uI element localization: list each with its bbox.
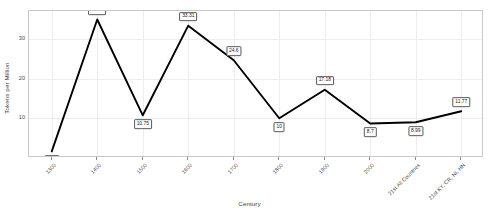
y-axis-tick-label: 20 bbox=[19, 75, 28, 81]
x-axis-tick-label: 1400 bbox=[90, 162, 103, 175]
x-axis-tick-mark bbox=[460, 157, 461, 160]
plot-area: 1.6834.8610.7533.3124.61017.188.78.9911.… bbox=[28, 10, 483, 157]
data-point-label: 8.99 bbox=[408, 126, 423, 136]
x-axis-tick-label: 1600 bbox=[181, 162, 194, 175]
y-axis-tick-label: 10 bbox=[19, 114, 28, 120]
x-axis-tick-mark bbox=[142, 157, 143, 160]
data-point-label: 34.86 bbox=[88, 10, 106, 15]
line-chart-figure: Tokens per Million 102030 1.6834.8610.75… bbox=[0, 0, 499, 220]
x-axis-tick-mark bbox=[51, 157, 52, 160]
x-axis-tick-label: 1300 bbox=[44, 162, 57, 175]
y-axis-title: Tokens per Million bbox=[3, 23, 13, 153]
x-axis-tick-label: 2000 bbox=[363, 162, 376, 175]
x-axis-title: Century bbox=[0, 200, 499, 207]
x-axis-tick-label: 21st KY, CR, NI, HN bbox=[428, 162, 467, 201]
x-axis-tick-label: 1900 bbox=[317, 162, 330, 175]
x-axis-tick-label: 1800 bbox=[272, 162, 285, 175]
data-point-label: 33.31 bbox=[179, 12, 197, 22]
x-axis-tick-mark bbox=[96, 157, 97, 160]
data-point-label: 17.18 bbox=[316, 76, 334, 86]
data-point-label: 8.7 bbox=[364, 128, 376, 138]
x-axis-tick-mark bbox=[324, 157, 325, 160]
x-axis-tick-mark bbox=[187, 157, 188, 160]
x-axis-tick-label: 1500 bbox=[135, 162, 148, 175]
data-point-label: 24.6 bbox=[226, 46, 241, 56]
x-axis-tick-mark bbox=[233, 157, 234, 160]
y-axis-tick-label: 30 bbox=[19, 35, 28, 41]
x-axis-tick-mark bbox=[369, 157, 370, 160]
x-axis-tick-mark bbox=[278, 157, 279, 160]
data-point-label: 10 bbox=[274, 122, 285, 132]
x-axis-tick-mark bbox=[415, 157, 416, 160]
x-axis-tick-label: 21st All Countries bbox=[386, 162, 421, 197]
data-point-label: 11.77 bbox=[453, 97, 470, 107]
x-axis-ticks: 1300140015001600170018001900200021st All… bbox=[28, 157, 483, 217]
x-axis-tick-label: 1700 bbox=[226, 162, 239, 175]
data-point-label: 10.75 bbox=[134, 119, 152, 129]
